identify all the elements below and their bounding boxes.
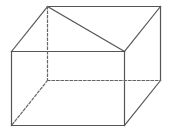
bottom-right-edge [125, 81, 161, 126]
cuboid-diagram [0, 0, 170, 135]
top-left-edge [12, 7, 48, 52]
top-face-diagonal [48, 7, 125, 52]
top-right-edge [125, 7, 161, 52]
hidden-bottom-left-edge [12, 81, 48, 126]
cuboid-edges [12, 7, 161, 126]
